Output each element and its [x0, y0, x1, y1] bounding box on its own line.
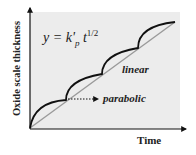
equation-var: t: [79, 30, 86, 45]
linear-label: linear: [122, 63, 149, 75]
equation-superscript: 1/2: [87, 28, 99, 38]
y-axis-label: Oxide scale thickness: [11, 13, 22, 125]
x-axis-label: Time: [137, 134, 161, 146]
rate-equation: y = k'p t1/2: [43, 28, 98, 48]
oxidation-kinetics-diagram: [0, 0, 196, 155]
equation-lhs: y = k': [43, 30, 75, 45]
parabolic-label: parabolic: [103, 92, 146, 104]
